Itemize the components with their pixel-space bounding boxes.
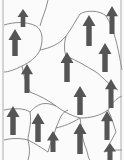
arrow-up-icon (106, 6, 118, 34)
arrow-icons (7, 6, 119, 160)
domain-boundary (28, 112, 31, 140)
arrow-up-icon (99, 43, 112, 72)
arrow-up-icon (18, 9, 29, 27)
arrow-up-icon (32, 113, 45, 142)
domain-boundary (40, 0, 48, 26)
arrow-up-icon (74, 123, 87, 154)
domain-boundary (28, 140, 30, 160)
domain-diagram (0, 0, 124, 160)
arrow-up-icon (61, 52, 74, 82)
domain-boundary (40, 11, 114, 50)
domain-diagram-svg (0, 0, 124, 160)
arrow-up-icon (101, 111, 113, 140)
domain-boundary (4, 139, 48, 153)
arrow-up-icon (104, 143, 116, 160)
arrow-up-icon (9, 29, 22, 56)
arrow-up-icon (7, 106, 20, 135)
arrow-up-icon (74, 86, 87, 115)
domain-boundary (4, 23, 42, 73)
arrow-up-icon (105, 79, 117, 108)
domain-boundary (65, 36, 67, 56)
arrow-up-icon (83, 15, 96, 46)
